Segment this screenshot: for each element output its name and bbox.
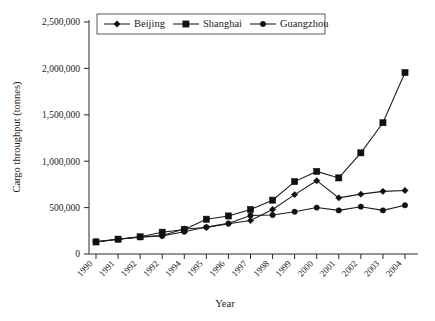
data-point-diamond-marker	[291, 191, 297, 197]
legend-items: BeijingShanghaiGuangzhou	[104, 18, 329, 29]
data-point-diamond-marker	[269, 206, 275, 212]
x-tick-label: 1990	[75, 258, 95, 278]
data-point-circle-marker	[204, 224, 209, 229]
data-point-square-marker	[247, 206, 253, 212]
y-tick-label: 0	[75, 249, 80, 259]
data-point-square-marker	[380, 120, 386, 126]
data-point-square-marker	[336, 175, 342, 181]
data-point-circle-marker	[292, 209, 297, 214]
x-tick-label: 2000	[296, 258, 316, 278]
legend-label: Beijing	[134, 18, 166, 29]
x-tick-marks	[96, 254, 405, 259]
x-tick-label: 2004	[384, 258, 404, 278]
data-point-circle-marker	[182, 229, 187, 234]
y-tick-label: 2,500,000	[42, 17, 80, 27]
data-point-square-marker	[225, 213, 231, 219]
x-tick-label: 1997	[229, 258, 249, 278]
x-axis-title: Year	[215, 298, 235, 309]
data-point-diamond-marker	[402, 187, 408, 193]
data-point-square-marker	[203, 216, 209, 222]
data-point-circle-marker	[336, 208, 341, 213]
x-tick-label: 1999	[274, 258, 294, 278]
chart-legend: BeijingShanghaiGuangzhou	[97, 14, 329, 34]
x-tick-label: 1992	[141, 259, 161, 279]
y-tick-label: 500,000	[49, 203, 80, 213]
data-point-circle-marker	[115, 236, 120, 241]
data-point-circle-marker	[226, 221, 231, 226]
data-point-circle-marker	[380, 208, 385, 213]
data-point-square-marker	[358, 150, 364, 156]
data-point-circle-marker	[314, 205, 319, 210]
data-series-group	[93, 69, 408, 245]
chart-canvas: 0500,0001,000,0001,500,0002,000,0002,500…	[0, 0, 435, 321]
x-tick-label: 2002	[340, 259, 360, 279]
x-tick-label: 2003	[362, 258, 382, 278]
x-tick-label: 1992	[119, 259, 139, 279]
y-axis-group: 0500,0001,000,0001,500,0002,000,0002,500…	[11, 17, 89, 259]
y-tick-label: 2,000,000	[42, 64, 80, 74]
data-point-circle-marker	[358, 204, 363, 209]
cargo-throughput-line-chart: 0500,0001,000,0001,500,0002,000,0002,500…	[0, 0, 435, 321]
x-tick-label: 1991	[97, 259, 117, 279]
y-tick-labels: 0500,0001,000,0001,500,0002,000,0002,500…	[42, 17, 80, 259]
x-tick-label: 1995	[185, 258, 205, 278]
x-tick-labels: 1990199119921992199419951996199719981999…	[75, 258, 404, 278]
legend-label: Guangzhou	[280, 18, 329, 29]
data-point-circle-marker	[93, 239, 98, 244]
x-tick-label: 1996	[207, 258, 227, 278]
data-point-diamond-marker	[358, 191, 364, 197]
data-point-circle-marker	[248, 213, 253, 218]
x-tick-label: 1994	[163, 258, 183, 278]
data-point-circle-marker	[137, 235, 142, 240]
data-point-square-marker	[269, 197, 275, 203]
data-point-square-marker	[402, 69, 408, 75]
data-point-square-marker	[314, 168, 320, 174]
data-point-circle-marker	[270, 212, 275, 217]
data-point-circle-marker	[402, 203, 407, 208]
y-tick-label: 1,500,000	[42, 110, 80, 120]
y-tick-label: 1,000,000	[42, 157, 80, 167]
y-axis-title: Cargo throughput (tonnes)	[11, 81, 23, 193]
x-tick-label: 2001	[318, 259, 338, 279]
data-point-circle-marker	[260, 21, 265, 26]
legend-label: Shanghai	[203, 18, 242, 29]
y-tick-marks	[84, 22, 89, 254]
data-point-square-marker	[292, 179, 298, 185]
x-tick-label: 1998	[251, 258, 271, 278]
data-point-square-marker	[183, 21, 189, 27]
x-axis-group: 1990199119921992199419951996199719981999…	[75, 254, 418, 309]
data-point-circle-marker	[160, 233, 165, 238]
data-point-diamond-marker	[380, 188, 386, 194]
